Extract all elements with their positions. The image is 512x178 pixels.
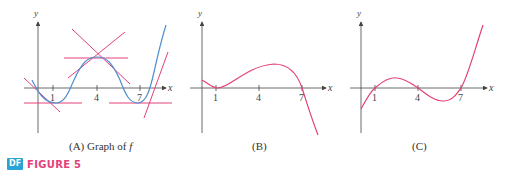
caption-a-var: f <box>129 140 132 152</box>
figure-label: DF FIGURE 5 <box>7 158 81 170</box>
caption-b: (B) <box>252 140 267 152</box>
tick-7-c: 7 <box>458 92 463 103</box>
figure-number: FIGURE 5 <box>27 159 81 170</box>
panel-b <box>190 22 326 135</box>
tick-4-a: 4 <box>94 92 99 103</box>
curve-c <box>361 25 483 109</box>
tick-4-b: 4 <box>256 92 261 103</box>
x-label-a: x <box>167 82 173 93</box>
x-label-c: x <box>488 82 494 93</box>
panel-c <box>350 22 487 133</box>
y-label-a: y <box>33 8 38 18</box>
panel-a <box>24 22 172 133</box>
tangent-lines <box>24 29 172 118</box>
tick-4-c: 4 <box>415 92 420 103</box>
caption-a: (A) Graph of f <box>69 140 132 152</box>
tick-7-b: 7 <box>299 92 304 103</box>
caption-c: (C) <box>412 140 427 152</box>
tick-1-a: 1 <box>50 92 55 103</box>
tick-7-a: 7 <box>137 92 142 103</box>
x-label-b: x <box>327 82 333 93</box>
caption-a-text: (A) Graph of <box>69 140 129 152</box>
y-label-b: y <box>197 8 202 18</box>
df-badge: DF <box>7 158 23 170</box>
y-label-c: y <box>356 8 361 18</box>
tick-1-c: 1 <box>372 92 377 103</box>
tick-1-b: 1 <box>213 92 218 103</box>
